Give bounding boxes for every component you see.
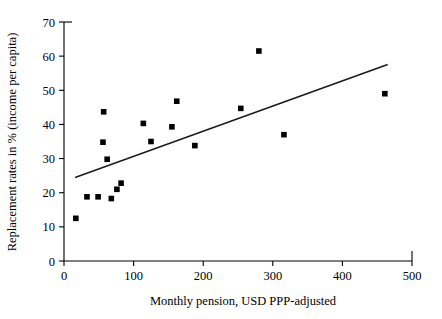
x-tick-label: 0 [61, 269, 67, 283]
data-point-marker [100, 139, 106, 145]
y-axis-title: Replacement rates in % (income per capit… [5, 33, 19, 252]
x-tick-label: 500 [403, 269, 422, 283]
x-tick-label: 300 [263, 269, 282, 283]
y-tick-label: 0 [49, 255, 55, 269]
regression-line [76, 65, 387, 178]
data-point-marker [109, 196, 115, 202]
data-point-marker [174, 98, 180, 104]
data-point-marker [238, 106, 244, 112]
data-point-marker [141, 121, 147, 127]
y-tick-label: 20 [43, 186, 56, 200]
data-point-marker [382, 91, 388, 97]
x-axis-title: Monthly pension, USD PPP-adjusted [150, 294, 337, 308]
x-axis-ticks: 0100200300400500 [61, 261, 422, 283]
data-point-marker [192, 143, 198, 149]
y-axis-ticks: 010203040506070 [43, 16, 65, 269]
y-tick-label: 30 [43, 152, 56, 166]
x-tick-label: 100 [124, 269, 143, 283]
y-tick-label: 10 [43, 220, 56, 234]
y-tick-label: 40 [43, 118, 56, 132]
data-point-marker [95, 194, 101, 200]
data-point-marker [114, 187, 120, 193]
data-point-marker [281, 132, 287, 138]
y-tick-label: 70 [43, 16, 56, 30]
data-points [73, 48, 388, 221]
data-point-marker [256, 48, 262, 54]
axes [64, 22, 412, 261]
data-point-marker [118, 180, 124, 186]
x-tick-label: 400 [333, 269, 352, 283]
data-point-marker [101, 109, 107, 115]
data-point-marker [169, 124, 175, 130]
x-tick-label: 200 [194, 269, 213, 283]
scatter-plot-figure: 0100200300400500 010203040506070 Monthly… [0, 0, 442, 319]
chart-canvas: 0100200300400500 010203040506070 Monthly… [0, 0, 442, 319]
axis-spines [64, 22, 412, 261]
data-point-marker [73, 216, 79, 222]
data-point-marker [84, 194, 90, 200]
data-point-marker [104, 156, 110, 162]
data-point-marker [148, 139, 154, 145]
trend-line [76, 65, 387, 178]
y-tick-label: 50 [43, 84, 56, 98]
y-tick-label: 60 [43, 50, 56, 64]
